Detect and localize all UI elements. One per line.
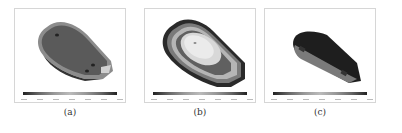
colorbar-ticks-a: [21, 97, 123, 101]
caption-a: (a): [14, 107, 126, 117]
figure-panel-b: [144, 8, 256, 103]
contour-plot-a: [15, 9, 127, 104]
colorbar-ticks-c: [271, 97, 373, 101]
figure-panel-c: [264, 8, 376, 103]
contour-plot-c: [265, 9, 377, 104]
colorbar-c: [273, 92, 367, 95]
colorbar-a: [23, 92, 117, 95]
figure-panel-a: [14, 8, 126, 103]
colorbar-b: [153, 92, 247, 95]
colorbar-ticks-b: [151, 97, 253, 101]
contour-plot-b: [145, 9, 257, 104]
caption-b: (b): [144, 107, 256, 117]
caption-c: (c): [264, 107, 376, 117]
